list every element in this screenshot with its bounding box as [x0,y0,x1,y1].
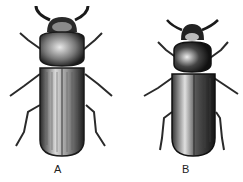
beetle-a-illustration [0,0,125,182]
panel-label-b: B [182,163,189,175]
panel-label-a: A [54,163,61,175]
beetle-b-illustration [120,0,243,182]
beetle-a-panel: A [0,0,125,182]
beetle-b-panel: B [120,0,243,182]
